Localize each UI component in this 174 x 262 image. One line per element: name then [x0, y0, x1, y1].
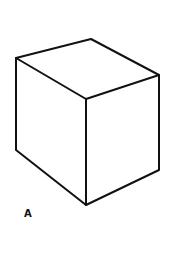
- figure-label: A: [24, 209, 32, 219]
- cube-drawing: [0, 0, 174, 262]
- cube-figure: A: [0, 0, 174, 262]
- cube-top-face: [16, 39, 159, 99]
- cube-left-face: [16, 58, 86, 205]
